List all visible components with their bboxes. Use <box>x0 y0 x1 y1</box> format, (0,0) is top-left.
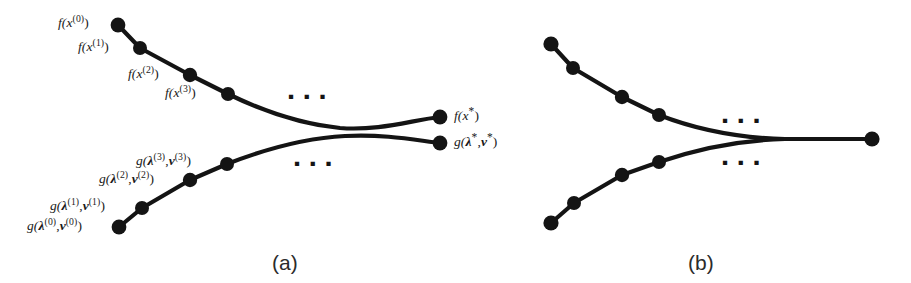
label-g-star-head: g( <box>454 134 465 149</box>
label-g-0-close: ) <box>77 218 82 233</box>
label-f-x-optimal: f(x*) <box>454 109 479 123</box>
panel-b-graphics <box>543 36 879 230</box>
ellipsis-dual-a: ▪ ▪ ▪ <box>294 155 334 172</box>
ellipsis-primal-a: ▪ ▪ ▪ <box>288 88 328 105</box>
label-f-x2-superscript: (2) <box>143 64 155 75</box>
ellipsis-primal-b: ▪ ▪ ▪ <box>722 112 762 129</box>
dual-curve-a <box>119 136 440 227</box>
primal-point-3 <box>652 108 666 122</box>
label-g-optimal: g(λ*,ν*) <box>454 135 497 149</box>
label-g-0-head: g( <box>27 218 38 233</box>
label-g-2-lambda-superscript: (2) <box>117 169 129 180</box>
label-g-3-nu-superscript: (3) <box>175 151 187 162</box>
dual-point-2 <box>183 173 197 187</box>
primal-point-1 <box>133 41 147 55</box>
primal-curve-b <box>551 44 872 139</box>
primal-point-1 <box>566 61 580 75</box>
label-f-x3-superscript: (3) <box>180 83 192 94</box>
label-f-xstar-close: ) <box>474 108 479 123</box>
label-f-xstar-head: f(x <box>454 108 469 123</box>
primal-curve-a <box>118 25 440 129</box>
figure-root: f(x(0)) f(x(1)) f(x(2)) f(x(3)) f(x*) g(… <box>0 0 911 283</box>
label-f-x1-head: f(x <box>78 39 93 54</box>
dual-point-optimal <box>433 136 448 151</box>
ellipsis-dual-b: ▪ ▪ ▪ <box>722 154 762 171</box>
label-g-2: g(λ(2),ν(2)) <box>99 172 154 186</box>
label-f-x3: f(x(3)) <box>165 86 196 100</box>
label-g-3-head: g( <box>136 153 147 168</box>
label-g-0-nu-superscript: (0) <box>66 216 78 227</box>
label-g-3-close: ) <box>186 153 191 168</box>
common-optimal-point <box>864 131 879 146</box>
label-f-x1: f(x(1)) <box>78 40 109 54</box>
dual-point-0 <box>112 220 127 235</box>
label-g-1: g(λ(1),ν(1)) <box>50 199 105 213</box>
primal-point-0 <box>543 36 558 51</box>
label-f-x1-superscript: (1) <box>93 37 105 48</box>
primal-point-3 <box>221 87 235 101</box>
label-f-x2: f(x(2)) <box>128 67 159 81</box>
label-f-x2-head: f(x <box>128 66 143 81</box>
dual-curve-b <box>551 139 872 223</box>
panel-a-graphics <box>111 18 448 235</box>
label-g-3-lambda-superscript: (3) <box>154 151 166 162</box>
label-g-2-close: ) <box>149 171 154 186</box>
label-f-x0-superscript: (0) <box>73 13 85 24</box>
dual-point-1 <box>135 201 149 215</box>
dual-point-2 <box>615 168 629 182</box>
label-f-x3-close: ) <box>191 85 196 100</box>
label-g-0: g(λ(0),ν(0)) <box>27 219 82 233</box>
label-f-x0-close: ) <box>84 15 89 30</box>
dual-point-3 <box>652 155 666 169</box>
label-g-1-head: g( <box>50 198 61 213</box>
panel-caption-a: (a) <box>272 252 298 273</box>
primal-point-optimal <box>433 110 448 125</box>
label-f-x1-close: ) <box>104 39 109 54</box>
label-f-x3-head: f(x <box>165 85 180 100</box>
label-g-3: g(λ(3),ν(3)) <box>136 154 191 168</box>
dual-point-1 <box>567 196 581 210</box>
label-g-1-lambda-superscript: (1) <box>68 196 80 207</box>
label-g-2-nu-superscript: (2) <box>138 169 150 180</box>
label-g-1-nu-superscript: (1) <box>89 196 101 207</box>
label-f-x0: f(x(0)) <box>58 16 89 30</box>
label-f-x2-close: ) <box>154 66 159 81</box>
label-g-0-lambda-superscript: (0) <box>45 216 57 227</box>
dual-point-3 <box>220 157 234 171</box>
label-f-x0-head: f(x <box>58 15 73 30</box>
label-g-2-head: g( <box>99 171 110 186</box>
label-g-1-close: ) <box>100 198 105 213</box>
primal-point-2 <box>615 90 629 104</box>
primal-point-2 <box>183 68 197 82</box>
dual-point-0 <box>543 215 558 230</box>
panel-caption-b: (b) <box>688 252 714 273</box>
primal-point-0 <box>111 18 126 33</box>
label-g-star-close: ) <box>493 134 498 149</box>
